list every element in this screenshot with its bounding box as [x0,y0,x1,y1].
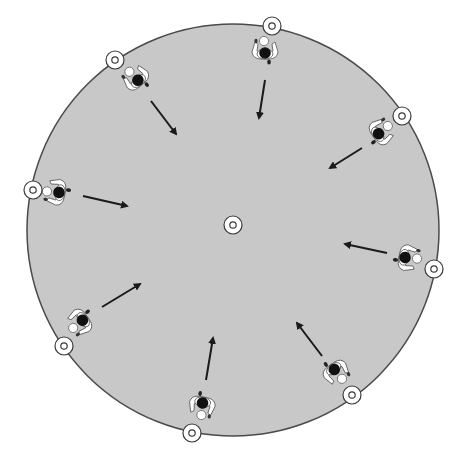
diagram-canvas [0,0,464,466]
ball-icon [259,36,268,45]
cone-marker-icon [24,181,42,199]
cone-marker-icon [425,260,443,278]
cone-marker-icon [263,17,281,35]
cone-marker-icon [393,107,411,125]
cone-marker-icon [55,337,73,355]
cone-marker-icon [183,424,201,442]
center-cone-marker-icon [224,216,242,234]
cone-marker-icon [343,386,361,404]
drill-diagram [0,0,464,466]
cone-marker-icon [106,51,124,69]
